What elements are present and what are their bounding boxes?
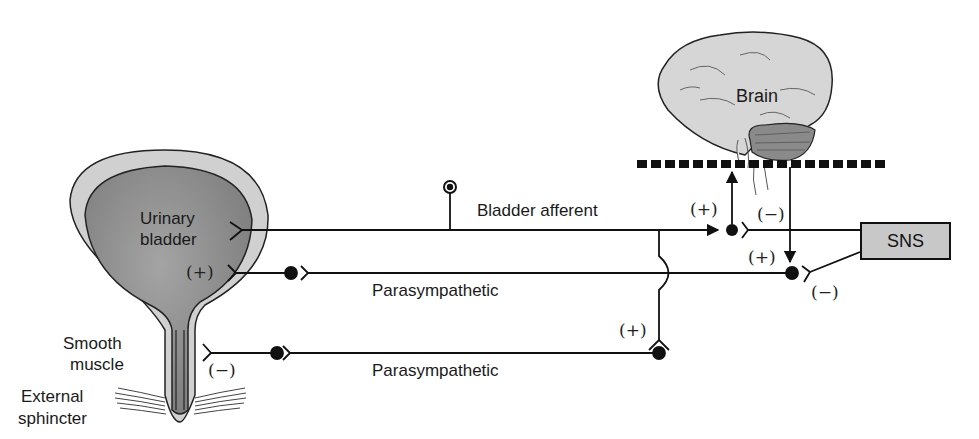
sns-minus-sign: (−) [811,284,839,301]
sns-box: SNS [860,222,951,260]
urinary-bladder-label-2: bladder [140,231,197,248]
sns-label: SNS [887,231,924,252]
brain-label: Brain [736,87,778,105]
spinal-fiber [753,165,756,195]
brain-minus-sign: (−) [757,206,785,223]
afferent-plus-sign: (+) [690,201,718,218]
urinary-bladder-label: Urinary [140,210,195,227]
bladder-afferent-label: Bladder afferent [477,202,598,219]
afferent-ascending [726,172,860,238]
afferent-lower-plus-sign: (+) [619,322,647,339]
external-sphincter-label: External [21,388,83,405]
sns-inhibition [802,252,860,282]
afferent-to-lower-branch [659,230,669,340]
parasympathetic-upper-label: Parasympathetic [372,282,499,299]
parasympathetic-lower-pathway [203,344,665,361]
urinary-bladder [70,150,268,422]
sphincter-minus-sign: (−) [208,362,236,379]
external-sphincter-label-2: sphincter [18,410,87,427]
smooth-muscle-label: Smooth [63,335,122,352]
smooth-muscle-label-2: muscle [70,356,124,373]
parasympathetic-upper-pathway [228,265,798,281]
parasympathetic-lower-label: Parasympathetic [372,362,499,379]
brain-para-plus-sign: (+) [748,249,776,266]
bladder-afferent-pathway [230,181,718,240]
bladder-plus-sign: (+) [186,264,214,281]
spinal-fiber [764,165,768,190]
